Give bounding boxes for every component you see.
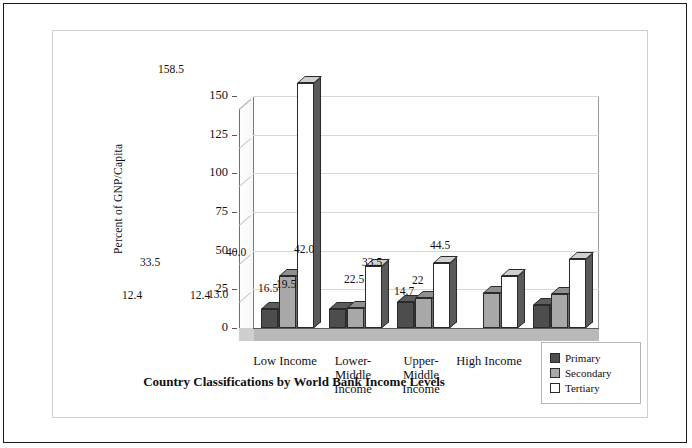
bar-side-face bbox=[314, 77, 321, 328]
bar-side-face bbox=[586, 253, 593, 328]
bar-value-label: 19.5 bbox=[276, 278, 296, 290]
bar-front-face bbox=[533, 305, 550, 328]
plot-area bbox=[239, 96, 599, 341]
axis-baseline bbox=[253, 328, 599, 329]
y-tick-mark bbox=[232, 135, 237, 136]
legend-item-primary[interactable]: Primary bbox=[550, 352, 633, 364]
bar-side-face bbox=[450, 257, 457, 328]
y-tick-mark bbox=[232, 173, 237, 174]
chart-legend[interactable]: PrimarySecondaryTertiary bbox=[541, 342, 641, 404]
legend-label: Primary bbox=[565, 352, 600, 364]
bar-primary[interactable] bbox=[329, 309, 346, 328]
bar-secondary[interactable] bbox=[551, 294, 568, 328]
legend-label: Tertiary bbox=[565, 382, 600, 394]
x-axis-label-line: Lower- bbox=[315, 354, 391, 368]
x-axis-label-line: Low Income bbox=[247, 354, 323, 368]
bar-front-face bbox=[415, 298, 432, 328]
bar-front-face bbox=[501, 276, 518, 328]
chart-floor bbox=[239, 328, 599, 341]
bar-secondary[interactable] bbox=[415, 298, 432, 328]
bar-front-face bbox=[329, 309, 346, 328]
bar-group bbox=[329, 96, 388, 328]
y-tick-mark bbox=[232, 212, 237, 213]
bar-tertiary[interactable] bbox=[569, 259, 586, 328]
bar-front-face bbox=[569, 259, 586, 328]
bar-front-face bbox=[297, 83, 314, 328]
bar-tertiary[interactable] bbox=[433, 263, 450, 328]
y-tick-mark bbox=[232, 96, 237, 97]
bar-primary[interactable] bbox=[533, 305, 550, 328]
x-axis-label-line: High Income bbox=[451, 354, 527, 368]
y-tick-mark bbox=[232, 328, 237, 329]
y-tick-label: 75 bbox=[194, 205, 228, 218]
bar-tertiary[interactable] bbox=[365, 266, 382, 328]
y-tick-label: 50 bbox=[194, 244, 228, 257]
bar-tertiary[interactable] bbox=[501, 276, 518, 328]
bar-value-label: 40.0 bbox=[226, 246, 246, 258]
bar-secondary[interactable] bbox=[483, 293, 500, 328]
bar-value-label: 12.4 bbox=[122, 289, 142, 301]
legend-swatch-icon bbox=[550, 353, 560, 363]
chart-plot-region: 0255075100125150 Low IncomeLower-MiddleI… bbox=[104, 44, 524, 314]
bar-secondary[interactable] bbox=[347, 308, 364, 328]
bar-side-face bbox=[518, 270, 525, 328]
bar-value-label: 14.7 bbox=[394, 285, 414, 297]
y-tick-mark bbox=[232, 289, 237, 290]
x-axis-label: Low Income bbox=[247, 354, 323, 368]
bar-group bbox=[533, 96, 592, 328]
bar-front-face bbox=[551, 294, 568, 328]
bar-front-face bbox=[347, 308, 364, 328]
bar-tertiary[interactable] bbox=[297, 83, 314, 328]
bar-value-label: 13.0 bbox=[208, 288, 228, 300]
bar-value-label: 42.0 bbox=[294, 243, 314, 255]
bar-value-label: 158.5 bbox=[158, 63, 184, 75]
bar-value-label: 33.5 bbox=[362, 256, 382, 268]
bar-group bbox=[465, 96, 524, 328]
y-tick-label: 150 bbox=[194, 89, 228, 102]
x-axis-label: High Income bbox=[451, 354, 527, 368]
bar-front-face bbox=[397, 302, 414, 328]
y-tick-label: 125 bbox=[194, 128, 228, 141]
legend-label: Secondary bbox=[565, 367, 611, 379]
legend-item-secondary[interactable]: Secondary bbox=[550, 367, 633, 379]
y-tick-label: 100 bbox=[194, 166, 228, 179]
bar-front-face bbox=[365, 266, 382, 328]
bar-side-face bbox=[382, 260, 389, 328]
legend-swatch-icon bbox=[550, 368, 560, 378]
bar-primary[interactable] bbox=[397, 302, 414, 328]
figure-border: Percent of GNP/Capita 0255075100125150 L… bbox=[3, 3, 687, 443]
bar-front-face bbox=[261, 309, 278, 328]
bar-value-label: 22 bbox=[412, 274, 424, 286]
bar-front-face bbox=[433, 263, 450, 328]
legend-item-tertiary[interactable]: Tertiary bbox=[550, 382, 633, 394]
bar-primary[interactable] bbox=[261, 309, 278, 328]
bar-value-label: 22.5 bbox=[344, 273, 364, 285]
bar-value-label: 33.5 bbox=[140, 256, 160, 268]
y-tick-label: 0 bbox=[194, 321, 228, 334]
bar-value-label: 44.5 bbox=[430, 239, 450, 251]
chart-title: Country Classifications by World Bank In… bbox=[64, 374, 524, 390]
bar-front-face bbox=[483, 293, 500, 328]
x-axis-label-line: Upper- bbox=[383, 354, 459, 368]
legend-swatch-icon bbox=[550, 383, 560, 393]
